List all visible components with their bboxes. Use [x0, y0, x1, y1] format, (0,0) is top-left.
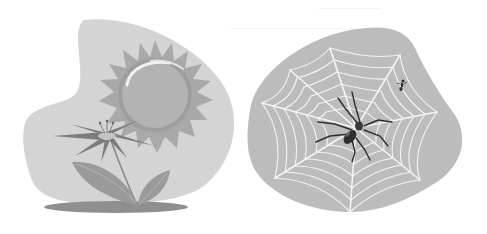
illustration-canvas: ——————— —————————————— Sun and flower il… — [0, 0, 487, 234]
spider-web-illustration: Spider on web illustration — [0, 0, 487, 234]
